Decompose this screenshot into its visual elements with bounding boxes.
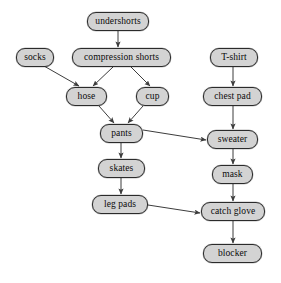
node-label-t-shirt: T-shirt bbox=[220, 53, 248, 63]
node-t-shirt[interactable]: T-shirt bbox=[210, 48, 258, 67]
node-label-mask: mask bbox=[221, 170, 243, 180]
edge-compression-shorts-to-cup bbox=[131, 67, 150, 86]
node-compression-shorts[interactable]: compression shorts bbox=[72, 48, 171, 67]
node-cup[interactable]: cup bbox=[136, 87, 169, 106]
node-chest-pad[interactable]: chest pad bbox=[203, 87, 262, 106]
edge-leg-pads-to-catch-glove bbox=[148, 205, 200, 213]
node-leg-pads[interactable]: leg pads bbox=[92, 195, 148, 214]
node-label-sweater: sweater bbox=[217, 135, 249, 145]
node-label-chest-pad: chest pad bbox=[213, 92, 252, 102]
node-undershorts[interactable]: undershorts bbox=[87, 12, 149, 31]
node-pants[interactable]: pants bbox=[100, 124, 143, 143]
diagram-canvas: undershortssockscompression shortsT-shir… bbox=[0, 0, 281, 283]
edge-compression-shorts-to-hose bbox=[93, 67, 113, 86]
node-label-socks: socks bbox=[23, 53, 47, 63]
node-label-pants: pants bbox=[110, 129, 133, 139]
node-catch-glove[interactable]: catch glove bbox=[201, 202, 265, 221]
edge-hose-to-pants bbox=[99, 106, 114, 123]
node-blocker[interactable]: blocker bbox=[203, 244, 262, 263]
node-skates[interactable]: skates bbox=[98, 159, 145, 178]
node-label-blocker: blocker bbox=[217, 249, 248, 259]
node-socks[interactable]: socks bbox=[16, 48, 54, 67]
node-label-leg-pads: leg pads bbox=[103, 200, 137, 210]
node-label-cup: cup bbox=[144, 92, 160, 102]
node-label-hose: hose bbox=[77, 92, 97, 102]
node-hose[interactable]: hose bbox=[66, 87, 107, 106]
node-mask[interactable]: mask bbox=[212, 165, 253, 184]
edge-socks-to-hose bbox=[44, 66, 79, 86]
node-label-undershorts: undershorts bbox=[94, 17, 141, 27]
node-label-compression-shorts: compression shorts bbox=[83, 53, 160, 63]
node-sweater[interactable]: sweater bbox=[207, 130, 258, 149]
edge-pants-to-sweater bbox=[143, 130, 206, 140]
edge-cup-to-pants bbox=[128, 106, 143, 123]
node-label-catch-glove: catch glove bbox=[210, 207, 257, 217]
node-label-skates: skates bbox=[109, 164, 135, 174]
